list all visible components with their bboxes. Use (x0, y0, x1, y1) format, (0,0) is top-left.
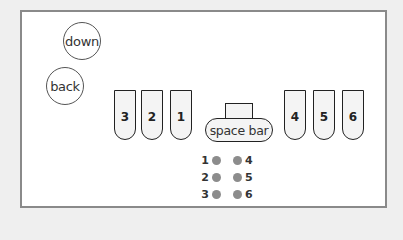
dot-number: 2 (199, 171, 209, 184)
braille-dot-icon (233, 173, 242, 182)
braille-dot-icon (212, 190, 221, 199)
dot-number: 5 (245, 171, 253, 184)
braille-dot-icon (233, 156, 242, 165)
key-label: 4 (291, 110, 299, 124)
key-dot-3[interactable]: 3 (114, 90, 136, 140)
key-dot-2[interactable]: 2 (141, 90, 163, 140)
space-bar-key[interactable]: space bar (205, 118, 273, 142)
down-button[interactable]: down (63, 22, 101, 60)
key-label: 1 (177, 110, 185, 124)
key-label: 2 (148, 110, 156, 124)
back-button-label: back (50, 79, 80, 94)
dot-number: 3 (199, 188, 209, 201)
key-label: 3 (121, 110, 129, 124)
braille-dot-icon (212, 173, 221, 182)
back-button[interactable]: back (46, 67, 84, 105)
braille-row-1: 1 4 (199, 154, 253, 167)
key-dot-5[interactable]: 5 (313, 90, 335, 140)
braille-dot-icon (212, 156, 221, 165)
dot-number: 4 (245, 154, 253, 167)
dot-number: 6 (245, 188, 253, 201)
space-bar-label: space bar (210, 123, 269, 138)
key-label: 5 (320, 110, 328, 124)
key-dot-1[interactable]: 1 (170, 90, 192, 140)
key-dot-6[interactable]: 6 (342, 90, 364, 140)
braille-row-2: 2 5 (199, 171, 253, 184)
key-dot-4[interactable]: 4 (284, 90, 306, 140)
down-button-label: down (65, 34, 99, 49)
key-label: 6 (349, 110, 357, 124)
dot-number: 1 (199, 154, 209, 167)
braille-dot-icon (233, 190, 242, 199)
braille-row-3: 3 6 (199, 188, 253, 201)
